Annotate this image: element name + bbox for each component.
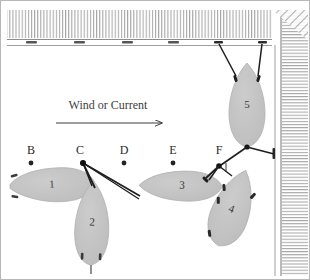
top-dock-hatch (7, 10, 272, 38)
station-label-f: F (216, 143, 223, 157)
station-label-e: E (169, 143, 176, 157)
station-label-c: C (76, 143, 84, 157)
dock-cleat-3 (122, 41, 133, 43)
flow-label: Wind or Current (69, 98, 148, 112)
station-dot-b (29, 161, 34, 166)
station-label-b: B (27, 143, 35, 157)
boat-4-cleat-port-aft (217, 197, 220, 204)
station-dot-d (122, 161, 127, 166)
dock-cleat-1 (26, 41, 37, 43)
boat-2-cleat-starboard (99, 253, 102, 260)
dock-cleat-5 (214, 41, 223, 43)
boat-5-label: 5 (244, 98, 250, 110)
dock-cleat-6 (258, 41, 267, 43)
diagram-canvas: Wind or Current B C D E F 5 (0, 0, 310, 280)
boat-2-label: 2 (89, 215, 95, 227)
station-dot-e (171, 161, 176, 166)
right-seawall-hatch (282, 10, 308, 276)
boat-4-cleat-port-fwd (222, 184, 226, 191)
c-line-anchor (80, 160, 86, 166)
boat-2-cleat-port (81, 253, 84, 260)
dock-cleat-4 (168, 41, 179, 43)
boat-3-label: 3 (179, 179, 185, 191)
station-label-d: D (120, 143, 129, 157)
dock-cleat-2 (74, 41, 85, 43)
docking-diagram: Wind or Current B C D E F 5 (0, 0, 310, 280)
boat-1-label: 1 (49, 177, 55, 189)
